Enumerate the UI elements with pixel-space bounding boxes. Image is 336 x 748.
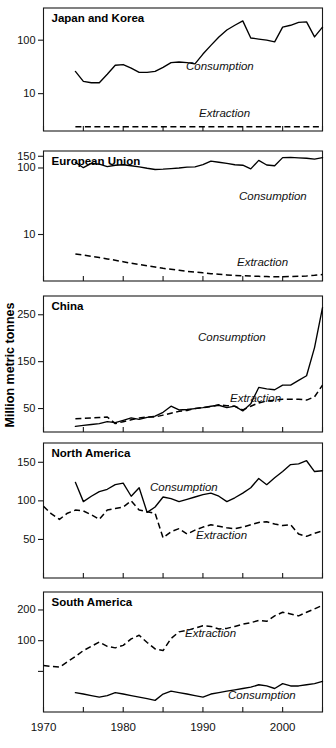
series-annotation-extraction: Extraction: [230, 392, 281, 404]
panel-title-3: China: [52, 300, 85, 312]
series-annotation-extraction: Extraction: [199, 107, 250, 119]
x-tick-label: 1970: [31, 721, 57, 733]
y-tick-label: 250: [17, 308, 35, 320]
series-annotation-extraction: Extraction: [196, 529, 247, 541]
panel-title-1: Japan and Korea: [52, 12, 145, 24]
y-tick-label: 100: [17, 494, 35, 506]
series-annotation-extraction: Extraction: [185, 627, 236, 639]
series-annotation-consumption: Consumption: [198, 331, 266, 343]
x-tick-label: 1990: [190, 721, 216, 733]
y-tick-label: 150: [17, 456, 35, 468]
x-tick-label: 2000: [270, 721, 296, 733]
series-annotation-consumption: Consumption: [228, 689, 296, 701]
x-tick-label: 1980: [110, 721, 136, 733]
y-tick-label: 150: [17, 150, 35, 162]
series-annotation-consumption: Consumption: [186, 60, 254, 72]
y-tick-label: 100: [17, 161, 35, 173]
y-tick-label: 10: [23, 228, 35, 240]
series-line-consumption: [75, 21, 322, 83]
panel-frame-3: [44, 296, 323, 432]
y-tick-label: 100: [17, 634, 35, 646]
y-tick-label: 200: [17, 603, 35, 615]
series-annotation-consumption: Consumption: [239, 190, 307, 202]
series-line-extraction: [44, 605, 323, 667]
y-tick-label: 50: [23, 533, 35, 545]
y-tick-label: 50: [23, 402, 35, 414]
multi-panel-line-chart: 10100Japan and Korea10100150European Uni…: [0, 0, 336, 748]
panel-title-4: North America: [52, 447, 131, 459]
y-axis-title: Million metric tonnes: [3, 302, 17, 427]
series-annotation-extraction: Extraction: [237, 256, 288, 268]
y-tick-label: 150: [17, 355, 35, 367]
panel-title-5: South America: [52, 596, 133, 608]
series-line-extraction: [75, 385, 322, 423]
chart-canvas: 10100Japan and Korea10100150European Uni…: [0, 0, 336, 748]
panel-frame-4: [44, 443, 323, 578]
panel-frame-1: [44, 8, 323, 131]
y-tick-label: 100: [17, 34, 35, 46]
series-annotation-consumption: Consumption: [150, 481, 218, 493]
series-line-extraction: [44, 501, 323, 538]
y-tick-label: 10: [23, 87, 35, 99]
